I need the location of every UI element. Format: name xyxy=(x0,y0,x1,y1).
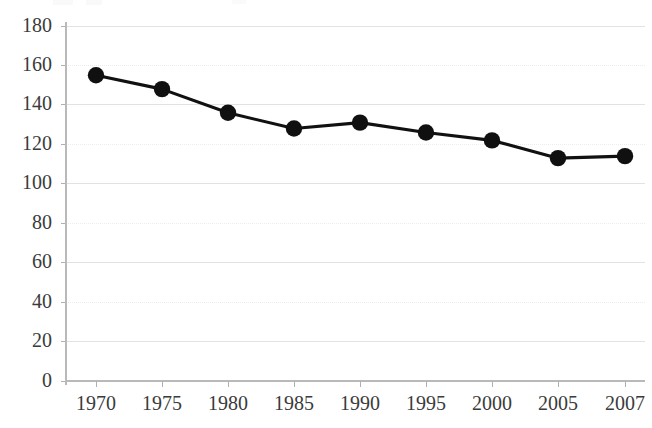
y-tick-label: 160 xyxy=(22,53,52,75)
x-tick-label: 2000 xyxy=(472,392,512,414)
data-point-1990 xyxy=(352,114,368,130)
line-chart: 020406080100120140160180 197019751980198… xyxy=(0,0,652,428)
x-tick-label: 1980 xyxy=(208,392,248,414)
data-point-2007 xyxy=(617,148,633,164)
x-tick-label: 1975 xyxy=(142,392,182,414)
y-tick-label: 0 xyxy=(42,369,52,391)
y-tick-label: 80 xyxy=(32,211,52,233)
data-point-1995 xyxy=(418,124,434,140)
x-tick-label: 1990 xyxy=(340,392,380,414)
x-axis-tick-labels: 197019751980198519901995200020052007 xyxy=(76,392,645,414)
chart-background xyxy=(0,0,652,428)
x-tick-label: 1985 xyxy=(274,392,314,414)
data-point-1980 xyxy=(220,105,236,121)
data-point-1975 xyxy=(154,81,170,97)
y-tick-label: 20 xyxy=(32,329,52,351)
chart-canvas: 020406080100120140160180 197019751980198… xyxy=(0,0,652,428)
x-tick-label: 2005 xyxy=(538,392,578,414)
data-point-2000 xyxy=(484,132,500,148)
y-tick-label: 120 xyxy=(22,132,52,154)
y-tick-label: 60 xyxy=(32,250,52,272)
x-tick-label: 2007 xyxy=(605,392,645,414)
data-point-1970 xyxy=(88,67,104,83)
y-tick-label: 40 xyxy=(32,290,52,312)
data-point-2005 xyxy=(550,150,566,166)
x-tick-label: 1995 xyxy=(406,392,446,414)
y-tick-label: 140 xyxy=(22,92,52,114)
y-tick-label: 180 xyxy=(22,14,52,36)
y-tick-label: 100 xyxy=(22,171,52,193)
data-point-1985 xyxy=(286,120,302,136)
x-tick-label: 1970 xyxy=(76,392,116,414)
